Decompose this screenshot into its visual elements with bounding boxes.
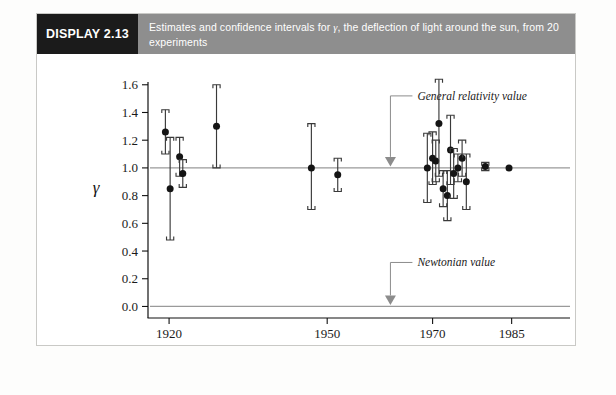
point-estimate-dot	[179, 170, 186, 177]
point-estimate-dot	[482, 163, 489, 170]
y-axis-label: γ	[93, 178, 101, 197]
annotation-arrow-icon	[385, 295, 396, 305]
point-estimate-dot	[454, 164, 461, 171]
confidence-interval-marker	[463, 154, 470, 209]
point-estimate-dot	[450, 170, 457, 177]
x-axis-ticks: 1920195019701985	[156, 318, 525, 341]
confidence-interval-marker	[482, 162, 489, 170]
chart-plot-area: 0.00.20.40.60.81.01.21.41.6 192019501970…	[36, 54, 576, 346]
annotation-leader-line	[390, 262, 412, 295]
y-tick-label: 1.4	[122, 105, 139, 120]
y-tick-label: 1.6	[122, 77, 139, 92]
point-estimate-dot	[506, 164, 513, 171]
y-tick-label: 0.6	[122, 216, 139, 231]
confidence-interval-marker	[213, 85, 220, 168]
reference-lines	[150, 168, 570, 307]
point-estimate-dot	[440, 185, 447, 192]
data-points-layer	[162, 79, 513, 240]
confidence-interval-marker	[179, 160, 186, 188]
y-tick-label: 1.0	[122, 160, 138, 175]
x-tick-label: 1970	[420, 326, 446, 341]
display-caption: Estimates and confidence intervals for γ…	[138, 14, 575, 54]
point-estimate-dot	[459, 155, 466, 162]
y-tick-label: 1.2	[122, 133, 138, 148]
annotation-label: Newtonian value	[416, 256, 495, 268]
chart-annotations: General relativity valueNewtonian value	[385, 90, 527, 305]
y-tick-label: 0.2	[122, 271, 138, 286]
page-background: DISPLAY 2.13 Estimates and confidence in…	[0, 0, 616, 395]
point-estimate-dot	[463, 178, 470, 185]
point-estimate-dot	[167, 185, 174, 192]
point-estimate-dot	[424, 164, 431, 171]
point-estimate-dot	[334, 171, 341, 178]
confidence-interval-marker	[424, 133, 431, 202]
display-number-badge: DISPLAY 2.13	[37, 14, 138, 54]
confidence-interval-marker	[162, 110, 169, 154]
display-header: DISPLAY 2.13 Estimates and confidence in…	[37, 14, 575, 54]
x-tick-label: 1950	[314, 326, 340, 341]
x-tick-label: 1920	[156, 326, 182, 341]
confidence-interval-marker	[506, 164, 513, 171]
point-estimate-dot	[162, 128, 169, 135]
confidence-interval-marker	[308, 124, 315, 210]
x-tick-label: 1985	[499, 326, 525, 341]
gamma-confidence-interval-chart: 0.00.20.40.60.81.01.21.41.6 192019501970…	[36, 54, 576, 346]
point-estimate-dot	[432, 157, 439, 164]
confidence-interval-marker	[450, 149, 457, 199]
y-axis-ticks: 0.00.20.40.60.81.01.21.41.6	[122, 77, 148, 314]
annotation-leader-line	[390, 96, 412, 157]
point-estimate-dot	[435, 120, 442, 127]
annotation-arrow-icon	[385, 157, 396, 167]
point-estimate-dot	[308, 164, 315, 171]
y-tick-label: 0.8	[122, 188, 138, 203]
confidence-interval-marker	[167, 137, 174, 240]
annotation-label: General relativity value	[417, 90, 526, 103]
caption-prefix: Estimates and confidence intervals for	[149, 21, 333, 33]
y-tick-label: 0.0	[122, 299, 138, 314]
y-tick-label: 0.4	[122, 244, 139, 259]
confidence-interval-marker	[334, 158, 341, 191]
point-estimate-dot	[213, 123, 220, 130]
